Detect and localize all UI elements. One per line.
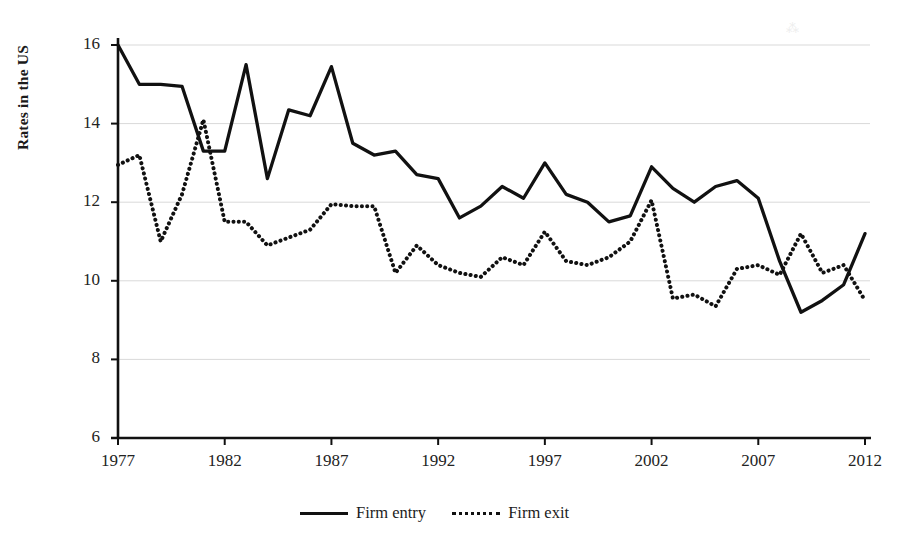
x-tick-label: 1977 <box>83 451 153 471</box>
legend-swatch-dotted-line <box>452 512 500 515</box>
legend-item-firm-entry: Firm entry <box>300 503 426 523</box>
grid-lines <box>118 45 870 359</box>
x-tick-label: 2007 <box>723 451 793 471</box>
legend-label-firm-entry: Firm entry <box>356 503 426 523</box>
y-tick-label: 10 <box>66 270 100 290</box>
tick-marks <box>111 45 865 445</box>
y-tick-label: 12 <box>66 191 100 211</box>
legend-swatch-solid-line <box>300 512 348 515</box>
y-tick-label: 14 <box>66 113 100 133</box>
axis-lines <box>111 38 871 438</box>
data-series-layer <box>118 45 865 312</box>
y-tick-label: 16 <box>66 34 100 54</box>
chart-legend: Firm entry Firm exit <box>300 500 660 526</box>
legend-item-firm-exit: Firm exit <box>452 503 569 523</box>
chart-figure: Rates in the US ⁂ 6810121416 19771982198… <box>0 0 913 558</box>
x-tick-label: 2012 <box>830 451 900 471</box>
x-tick-label: 1982 <box>190 451 260 471</box>
legend-label-firm-exit: Firm exit <box>508 503 569 523</box>
x-tick-label: 1992 <box>403 451 473 471</box>
line-chart-plot <box>0 0 913 558</box>
series-line-firm-entry <box>118 45 865 312</box>
series-line-firm-exit <box>118 120 865 307</box>
x-tick-label: 1997 <box>510 451 580 471</box>
y-tick-label: 6 <box>66 427 100 447</box>
x-tick-label: 2002 <box>617 451 687 471</box>
y-tick-label: 8 <box>66 348 100 368</box>
x-tick-label: 1987 <box>296 451 366 471</box>
